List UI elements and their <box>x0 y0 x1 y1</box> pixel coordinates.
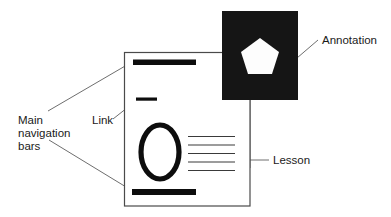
callout-label-main-navigation-bars: Main navigation bars <box>18 114 74 152</box>
callout-line-3: bars <box>18 140 41 152</box>
callout-label-lesson: Lesson <box>273 154 310 166</box>
leader-line-annotation <box>297 40 318 58</box>
bottom-navigation-bar[interactable] <box>132 189 196 195</box>
leader-line-main-nav-top <box>48 62 132 111</box>
callout-line-1: Main <box>18 114 43 126</box>
callout-line-2: navigation <box>18 127 70 139</box>
top-navigation-bar[interactable] <box>133 60 196 66</box>
annotation-thumbnail[interactable] <box>222 11 298 100</box>
callout-label-link: Link <box>92 114 113 126</box>
leader-line-main-nav-bottom <box>49 140 131 190</box>
callout-label-annotation: Annotation <box>322 34 377 46</box>
link-bar[interactable] <box>136 98 157 101</box>
diagram-canvas: Main navigation bars Link Annotation Les… <box>0 0 391 217</box>
diagram-svg: Main navigation bars Link Annotation Les… <box>0 0 391 217</box>
